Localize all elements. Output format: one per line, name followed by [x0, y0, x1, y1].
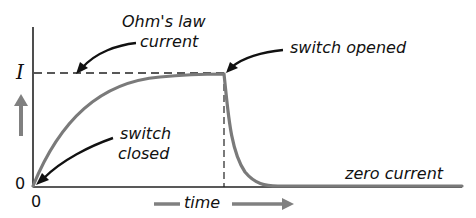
ohms-law-label-line1: Ohm's law — [122, 14, 205, 30]
switch-opened-pointer-arrow-icon — [226, 50, 283, 73]
switch-opened-label: switch opened — [290, 40, 406, 56]
switch-closed-label-line1: switch — [120, 126, 171, 142]
current-level-I-label: I — [16, 62, 24, 82]
zero-current-label: zero current — [345, 166, 443, 182]
current-vs-time-diagram — [0, 0, 476, 218]
switch-closed-pointer-arrow-icon — [36, 138, 113, 185]
time-arrow-icon — [154, 198, 294, 210]
y-origin-label: 0 — [15, 176, 25, 192]
ohms-law-label-line2: current — [140, 34, 198, 50]
time-axis-label: time — [184, 195, 220, 211]
current-increasing-arrow-icon — [14, 94, 28, 136]
ohms-law-pointer-arrow-icon — [76, 43, 136, 74]
switch-closed-label-line2: closed — [118, 146, 169, 162]
x-origin-label: 0 — [31, 194, 41, 210]
